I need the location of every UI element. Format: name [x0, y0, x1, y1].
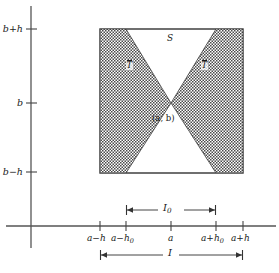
x-tick-label-a-minus-h0-subscript: 0: [130, 237, 134, 245]
interval-I-left-arrowhead: [101, 252, 107, 258]
y-tick-label-b-minus-h: b−h: [0, 167, 23, 177]
x-axis-group: [6, 221, 276, 231]
interval-I-label: I: [168, 248, 172, 258]
x-tick-label-a-plus-h: a+h: [231, 234, 250, 243]
x-tick-label-a-minus-h: a−h: [87, 234, 106, 243]
x-tick-label-a-plus-h0-main: a+h: [201, 233, 220, 243]
region-label-left-triangle: T: [126, 60, 133, 70]
region-label-S: S: [167, 34, 173, 43]
interval-I-right-arrowhead: [236, 252, 242, 258]
interval-I0-label-subscript: 0: [167, 206, 172, 215]
interval-I0-left-arrowhead: [127, 207, 133, 213]
y-tick-label-b: b: [0, 98, 23, 108]
figure-root: b+h b b−h a−h a−h0 a a+h0 a+h I0 I S T T…: [0, 0, 279, 273]
y-axis-group: [26, 6, 37, 248]
x-tick-label-a: a: [168, 234, 173, 243]
x-tick-label-a-minus-h0-main: a−h: [111, 233, 130, 243]
x-tick-label-a-plus-h0-subscript: 0: [220, 237, 224, 245]
interval-I0-right-arrowhead: [209, 207, 215, 213]
region-label-left-triangle-text: T: [127, 60, 133, 70]
interval-I0-label: I0: [163, 203, 172, 214]
point-label-a-b-text: (a, b): [152, 113, 175, 123]
x-tick-label-a-plus-h0: a+h0: [201, 234, 224, 244]
region-label-right-triangle: T: [201, 60, 208, 70]
x-tick-label-a-minus-h0: a−h0: [111, 234, 134, 244]
point-label-a-b: (a, b): [152, 114, 175, 123]
region-label-right-triangle-text: T: [202, 60, 208, 70]
y-tick-label-b-plus-h: b+h: [0, 24, 23, 34]
